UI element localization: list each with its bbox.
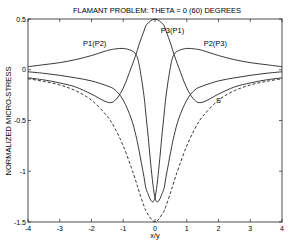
x-tick-label: -1 <box>120 225 126 232</box>
series-p1-p2 <box>28 48 282 202</box>
series-p3-p1 <box>28 19 282 103</box>
x-axis-label: x/y <box>150 231 160 240</box>
series-group <box>28 19 282 222</box>
y-axis-label: NORMALIZED MICRO-STRESS <box>4 67 13 176</box>
chart: FLAMANT PROBLEM: THETA = 0 (60) DEGREES … <box>0 0 289 244</box>
y-tick-label: 0 <box>22 66 26 73</box>
x-tick-label: 3 <box>248 225 252 232</box>
annotation-label: P1(P2) <box>83 39 107 48</box>
series-p2-p3 <box>28 48 282 202</box>
x-tick-label: -4 <box>25 225 31 232</box>
annotation-label: P2(P3) <box>204 39 228 48</box>
y-tick-label: -0.5 <box>14 117 26 124</box>
x-tick-label: -3 <box>57 225 63 232</box>
x-tick-label: 4 <box>280 225 284 232</box>
plot-frame <box>28 19 282 222</box>
y-tick-label: -1 <box>20 168 26 175</box>
annotation-label: P3(P1) <box>161 26 185 35</box>
x-tick-label: -2 <box>88 225 94 232</box>
x-tick-label: 2 <box>217 225 221 232</box>
y-tick-label: -1.5 <box>14 219 26 226</box>
chart-title: FLAMANT PROBLEM: THETA = 0 (60) DEGREES <box>73 6 241 15</box>
annotations: P1(P2)P3(P1)P2(P3)S <box>83 26 227 105</box>
x-tick-label: 1 <box>185 225 189 232</box>
series-s <box>28 79 282 222</box>
axes: -4-3-2-1012340.50-0.5-1-1.5 <box>14 16 284 233</box>
y-tick-label: 0.5 <box>16 16 26 23</box>
annotation-label: S <box>216 96 221 105</box>
